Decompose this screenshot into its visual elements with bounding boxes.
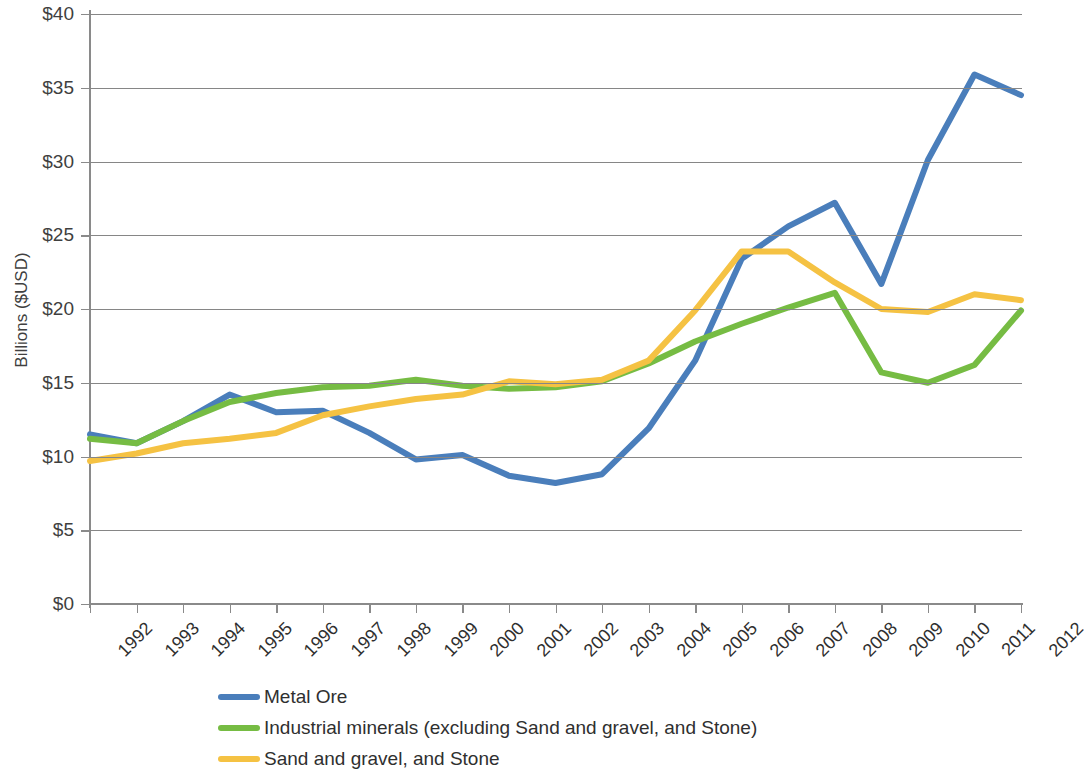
x-axis-tick-mark [928, 604, 929, 613]
x-axis-tick-label: 2006 [765, 618, 808, 661]
x-axis-tick-mark [276, 604, 277, 613]
legend-item[interactable]: Sand and gravel, and Stone [218, 743, 1018, 774]
x-axis-tick-mark [788, 604, 789, 613]
y-axis-tick-label: $25 [12, 224, 74, 246]
x-axis-tick-mark [462, 604, 463, 613]
chart-legend: Metal OreIndustrial minerals (excluding … [218, 681, 1018, 774]
y-axis-tick-mark [81, 14, 90, 15]
gridline [90, 383, 1022, 384]
x-axis-tick-mark [974, 604, 975, 613]
x-axis-tick-label: 1996 [300, 618, 343, 661]
y-axis-tick-label: $35 [12, 77, 74, 99]
y-axis-tick-label: $10 [12, 446, 74, 468]
y-axis-tick-mark [81, 162, 90, 163]
y-axis-tick-mark [81, 235, 90, 236]
y-axis-tick-mark [81, 530, 90, 531]
y-axis-tick-label: $40 [12, 3, 74, 25]
x-axis-tick-mark [695, 604, 696, 613]
x-axis-tick-mark [509, 604, 510, 613]
y-axis-tick-mark [81, 457, 90, 458]
x-axis-tick-mark [742, 604, 743, 613]
x-axis-tick-mark [1021, 604, 1022, 613]
x-axis-tick-label: 2000 [486, 618, 529, 661]
x-axis-tick-label: 2011 [998, 618, 1040, 660]
x-axis-tick-label: 1999 [440, 618, 483, 661]
x-axis-tick-label: 2002 [579, 618, 622, 661]
x-axis-tick-label: 2004 [672, 618, 715, 661]
legend-label: Sand and gravel, and Stone [264, 748, 500, 770]
x-axis-tick-label: 2005 [719, 618, 762, 661]
y-axis-tick-label: $30 [12, 151, 74, 173]
gridline [90, 457, 1022, 458]
x-axis-tick-label: 1997 [346, 618, 389, 661]
y-axis-tick-label: $20 [12, 298, 74, 320]
legend-item[interactable]: Industrial minerals (excluding Sand and … [218, 712, 1018, 743]
x-axis-tick-label: 2012 [1045, 618, 1088, 661]
x-axis-tick-label: 2009 [905, 618, 948, 661]
y-axis-tick-label: $0 [12, 593, 74, 615]
y-axis-tick-label: $5 [12, 519, 74, 541]
plot-area [90, 14, 1022, 604]
x-axis-tick-mark [137, 604, 138, 613]
x-axis-tick-label: 2010 [952, 618, 995, 661]
gridline [90, 235, 1022, 236]
x-axis-tick-mark [556, 604, 557, 613]
x-axis-tick-label: 2003 [626, 618, 669, 661]
legend-color-swatch [218, 694, 260, 700]
x-axis-tick-mark [230, 604, 231, 613]
series-line [90, 74, 1021, 483]
y-axis-tick-labels: $0$5$10$15$20$25$30$35$40 [12, 0, 74, 620]
y-axis-tick-mark [81, 604, 90, 605]
gridline [90, 88, 1022, 89]
y-axis-tick-mark [81, 88, 90, 89]
x-axis-tick-label: 1998 [393, 618, 436, 661]
x-axis-tick-label: 1994 [207, 618, 250, 661]
x-axis-tick-label: 2007 [812, 618, 855, 661]
x-axis-tick-mark [881, 604, 882, 613]
gridline [90, 530, 1022, 531]
legend-label: Industrial minerals (excluding Sand and … [264, 717, 757, 739]
x-axis-tick-mark [369, 604, 370, 613]
x-axis-tick-label: 2001 [533, 618, 576, 661]
x-axis-tick-mark [416, 604, 417, 613]
x-axis-tick-label: 1993 [160, 618, 203, 661]
x-axis-tick-label: 1992 [114, 618, 157, 661]
x-axis-tick-mark [649, 604, 650, 613]
legend-color-swatch [218, 725, 260, 731]
x-axis-tick-mark [183, 604, 184, 613]
gridline [90, 309, 1022, 310]
legend-color-swatch [218, 756, 260, 762]
legend-item[interactable]: Metal Ore [218, 681, 1018, 712]
x-axis-tick-mark [90, 604, 91, 613]
x-axis-tick-label: 2008 [859, 618, 902, 661]
x-axis-tick-mark [602, 604, 603, 613]
x-axis-tick-mark [323, 604, 324, 613]
y-axis-tick-mark [81, 309, 90, 310]
series-line [90, 293, 1021, 443]
x-axis-tick-mark [835, 604, 836, 613]
x-axis-tick-label: 1995 [253, 618, 296, 661]
y-axis-tick-mark [81, 383, 90, 384]
y-axis-tick-label: $15 [12, 372, 74, 394]
legend-label: Metal Ore [264, 686, 347, 708]
gridline [90, 14, 1022, 15]
gridline [90, 162, 1022, 163]
